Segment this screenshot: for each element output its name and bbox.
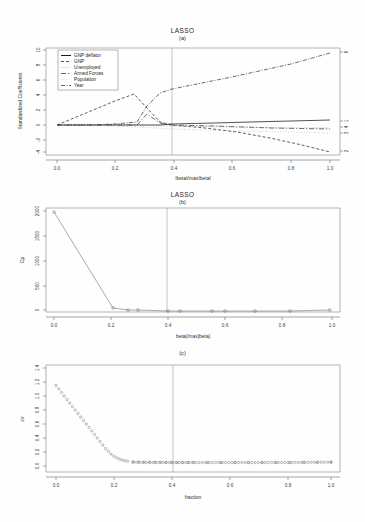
cv-point [145,461,147,463]
svg-text:10: 10 [36,47,41,53]
svg-text:1.0: 1.0 [329,323,336,328]
panel-a-xaxis: 0.0 0.2 0.4 0.6 0.8 1.0 [46,160,340,171]
svg-text:0.2: 0.2 [35,448,40,455]
cv-point [124,460,126,462]
panel-c-ylabel: cv [19,416,25,422]
cv-point [201,461,203,463]
cv-point [178,461,180,463]
svg-text:0.8: 0.8 [279,323,286,328]
svg-text:2000: 2000 [35,205,40,216]
svg-text:1.4: 1.4 [35,364,40,371]
cv-point [60,391,62,393]
panel-c-xlabel: fraction [185,494,202,500]
panel-a-ylabel: Standardized Coefficients [17,72,23,129]
svg-text:0.2: 0.2 [112,166,119,171]
svg-text:4: 4 [36,93,41,96]
cv-point [96,437,98,439]
svg-text:0.8: 0.8 [285,483,292,488]
panel-b-plot: 2000 1500 1000 500 0 Cp 0.0 0.2 0.4 0.6 … [0,180,365,352]
svg-text:0.8: 0.8 [288,166,295,171]
svg-text:4: 4 [344,125,349,128]
svg-text:0.2: 0.2 [111,483,118,488]
svg-text:0.0: 0.0 [53,483,60,488]
svg-text:0.2: 0.2 [108,323,115,328]
panel-c-xaxis: 0.0 0.2 0.4 0.6 0.8 1.0 [46,477,340,488]
cv-point [195,461,197,463]
svg-text:-4: -4 [36,150,41,155]
cv-point [297,461,299,463]
cv-point [93,433,95,435]
cv-point [135,461,137,463]
cv-point [270,461,272,463]
svg-text:0.0: 0.0 [54,166,61,171]
cv-point [323,461,325,463]
panel-b-plot-frame [46,208,340,312]
svg-text:1.2: 1.2 [35,378,40,385]
legend-label-armed-forces: Armed Forces [74,71,104,76]
cv-point [198,461,200,463]
svg-text:0.0: 0.0 [35,462,40,469]
cv-point [231,461,233,463]
cv-point [58,388,60,390]
panel-b-title: LASSO [0,191,365,198]
cv-point [99,440,101,442]
cv-point [165,461,167,463]
panel-a-subtitle: (a) [0,35,365,41]
cv-point [85,423,87,425]
cv-point [69,402,71,404]
svg-text:0.4: 0.4 [171,166,178,171]
svg-text:500: 500 [35,282,40,290]
cv-point [251,461,253,463]
cv-point [237,461,239,463]
cv-point [313,461,315,463]
cv-point [204,461,206,463]
cv-point [320,461,322,463]
svg-text:0.0: 0.0 [51,323,58,328]
cv-point [66,398,68,400]
svg-text:0: 0 [35,308,40,311]
svg-text:0: 0 [36,123,41,126]
panel-b-xaxis: 0.0 0.2 0.4 0.6 0.8 1.0 [46,317,340,328]
cv-point [107,450,109,452]
cv-point [244,461,246,463]
cv-point [121,459,123,461]
panel-c-yaxis: 1.4 1.2 1.0 0.8 0.6 0.4 0.2 0.0 [35,364,46,469]
panel-c: (c) 1.4 1.2 1.0 0.8 0.6 0.4 0.2 [0,352,365,522]
panel-a-title: LASSO [0,27,365,34]
panel-b-points [53,211,332,313]
svg-text:6: 6 [344,50,349,53]
svg-text:1: 1 [344,119,349,122]
cv-point [277,461,279,463]
cv-point [280,461,282,463]
legend-label-year: Year [74,83,84,88]
panel-a: LASSO (a) 10 8 6 4 2 0 [0,0,365,180]
cv-point [257,461,259,463]
svg-text:0.6: 0.6 [227,483,234,488]
svg-text:0.6: 0.6 [229,166,236,171]
series-population [57,125,330,133]
cv-point [185,461,187,463]
svg-text:2: 2 [344,149,349,152]
svg-text:3: 3 [344,131,349,134]
cv-point [224,461,226,463]
cv-point [55,384,57,386]
svg-text:0.8: 0.8 [35,406,40,413]
cv-point [104,447,106,449]
series-gnp [57,94,330,152]
cv-point [113,455,115,457]
svg-text:0.6: 0.6 [222,323,229,328]
cv-point [327,461,329,463]
legend-label-gnp: GNP [74,59,84,64]
cv-point [118,458,120,460]
cv-point [254,461,256,463]
cv-point [152,461,154,463]
cv-point [88,426,90,428]
svg-text:8: 8 [36,63,41,66]
svg-text:1000: 1000 [35,255,40,266]
svg-text:1.0: 1.0 [35,392,40,399]
legend-label-unemployed: Unemployed [74,65,101,70]
svg-text:1500: 1500 [35,230,40,241]
cv-point [214,461,216,463]
panel-b-ylabel: Cp [19,257,25,264]
cv-point [287,461,289,463]
